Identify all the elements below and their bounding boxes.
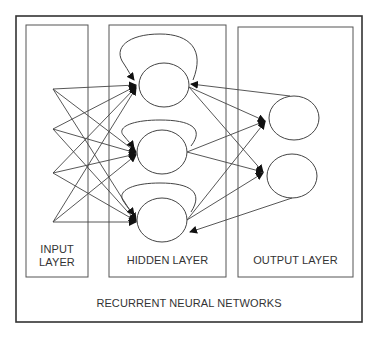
input-layer-label-line2: LAYER — [26, 256, 88, 269]
diagram-title: RECURRENT NEURAL NETWORKS — [16, 297, 362, 310]
input-layer-box — [26, 25, 88, 277]
input-layer-label-line1: INPUT — [26, 243, 88, 256]
rnn-diagram — [0, 0, 378, 339]
hidden-node-2 — [137, 130, 187, 174]
input-layer-label: INPUT LAYER — [26, 243, 88, 269]
output-node-2 — [267, 154, 317, 198]
output-layer-box — [238, 27, 353, 277]
output-node-1 — [269, 96, 319, 140]
hidden-node-3 — [137, 198, 187, 242]
hidden-layer-label: HIDDEN LAYER — [109, 254, 226, 267]
hidden-self-loops — [120, 34, 197, 215]
output-layer-label: OUTPUT LAYER — [238, 254, 353, 267]
hidden-node-1 — [139, 63, 189, 107]
